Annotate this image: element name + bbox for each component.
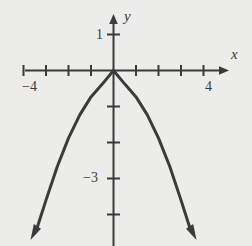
x-axis: [25, 66, 229, 75]
x-tick-label--4: −4: [22, 80, 37, 94]
plot-canvas: [0, 0, 252, 246]
curve-right-arrow-icon: [186, 224, 197, 240]
y-axis-arrow-icon: [109, 14, 118, 24]
x-tick-label-4: 4: [205, 80, 212, 94]
y-axis: [109, 14, 118, 246]
x-axis-label: x: [231, 47, 238, 62]
y-tick-label-1: 1: [96, 28, 103, 42]
graph-figure: y x −4 4 1 −3: [0, 0, 252, 246]
x-axis-arrow-icon: [219, 66, 229, 75]
y-tick-label--3: −3: [83, 171, 98, 185]
y-axis-label: y: [124, 9, 131, 24]
curve-left-arrow-icon: [31, 224, 42, 240]
